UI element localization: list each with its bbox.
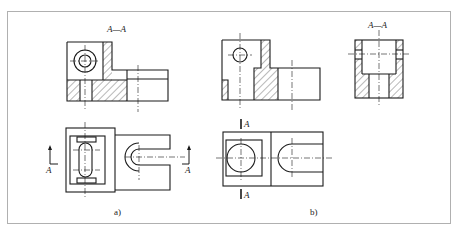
panel-b-marker-bottom: A (243, 190, 250, 200)
panel-a-caption: a) (114, 207, 121, 217)
panel-a-marker-right: A (184, 165, 191, 175)
panel-a-plan-view (48, 122, 191, 198)
panel-a-section-view (67, 42, 168, 112)
technical-drawing: A—A (0, 0, 458, 234)
panel-b-front-view (222, 33, 320, 112)
panel-b-plan-view (216, 119, 333, 199)
panel-b-marker-top: A (243, 119, 250, 129)
panel-a-marker-left: A (45, 165, 52, 175)
panel-b-section-title: A—A (367, 20, 388, 30)
panel-b-caption: b) (310, 207, 318, 217)
panel-a-section-title: A—A (106, 24, 127, 34)
panel-b-section-view (348, 30, 410, 107)
